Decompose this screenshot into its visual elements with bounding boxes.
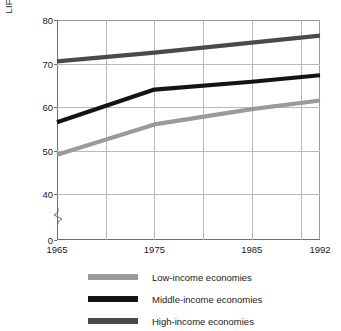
- life-expectancy-line-chart: LIFE EXPECTANCY IN YEARS 04050607080 196…: [0, 0, 341, 331]
- legend-swatch: [88, 274, 138, 280]
- series-line: [57, 75, 320, 122]
- y-axis-tick-label: 50: [42, 145, 53, 156]
- x-axis-tick-label: 1965: [46, 244, 67, 255]
- y-axis-tick-label: 60: [42, 102, 53, 113]
- y-axis-title-container: LIFE EXPECTANCY IN YEARS: [0, 22, 24, 222]
- x-axis-tick-label: 1985: [241, 244, 262, 255]
- chart-legend: Low-income economiesMiddle-income econom…: [0, 266, 341, 331]
- series-lines: [57, 20, 320, 240]
- legend-swatch: [88, 296, 138, 302]
- legend-item: Low-income economies: [0, 266, 341, 288]
- x-axis-tick-label: 1992: [309, 244, 330, 255]
- y-axis-tick-label: 80: [42, 15, 53, 26]
- plot-area: 04050607080 1965197519851992: [57, 20, 320, 240]
- x-axis-tick-label: 1975: [144, 244, 165, 255]
- legend-swatch: [88, 318, 138, 324]
- y-axis-break-icon: [52, 208, 64, 224]
- y-axis-title: LIFE EXPECTANCY IN YEARS: [2, 0, 16, 50]
- legend-item: Middle-income economies: [0, 288, 341, 310]
- y-axis-tick-label: 40: [42, 189, 53, 200]
- series-line: [57, 36, 320, 62]
- legend-item: High-income economies: [0, 310, 341, 331]
- legend-label: Middle-income economies: [152, 294, 262, 305]
- legend-label: Low-income economies: [152, 272, 252, 283]
- legend-label: High-income economies: [152, 316, 254, 327]
- y-axis-tick-label: 70: [42, 58, 53, 69]
- y-axis-tick-mark: [54, 240, 57, 241]
